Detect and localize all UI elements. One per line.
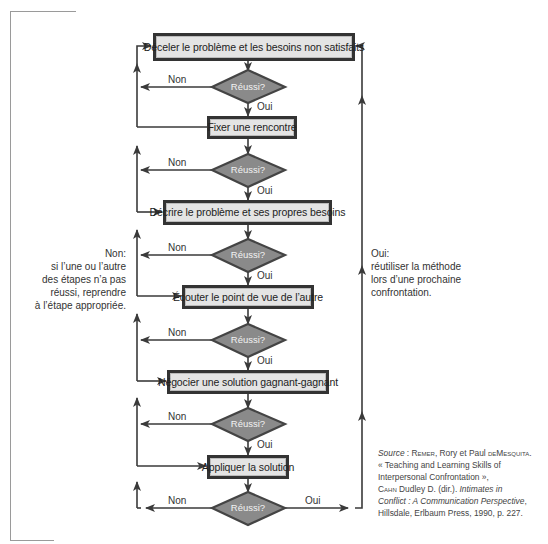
non-label-5: Non [168, 412, 186, 422]
source-book-title-1: Intimates in [460, 484, 503, 494]
left-note-line: des étapes n’a pas [20, 273, 126, 286]
left-note-line: Non: [20, 247, 126, 260]
decision-label-2: Réussi? [218, 165, 278, 175]
oui-label-1: Oui [257, 102, 273, 112]
source-editor: Cahn [378, 484, 397, 494]
source-publisher: Hillsdale, Erlbaum Press, 1990, p. 227. [378, 507, 548, 519]
source-book-title-2: Conflict : A Communication Perspective [378, 496, 524, 506]
decision-label-3: Réussi? [218, 250, 278, 260]
step-box-6: Appliquer la solution [207, 455, 289, 479]
decision-label-5: Réussi? [218, 419, 278, 429]
non-label-4: Non [168, 328, 186, 338]
step-label-3: Décrire le problème et ses propres besoi… [150, 207, 346, 218]
right-note-line: réutiliser la méthode [371, 260, 491, 273]
step-label-6: Appliquer la solution [202, 462, 294, 473]
non-label-3: Non [168, 243, 186, 253]
step-label-1: Déceler le problème et les besoins non s… [144, 42, 364, 53]
source-title-line-1: « Teaching and Learning Skills of [378, 459, 548, 471]
step-box-4: Écouter le point de vue de l’autre [182, 285, 314, 309]
left-note-line: réussi, reprendre [20, 286, 126, 299]
oui-label-6: Oui [305, 496, 321, 506]
flowchart-figure: Déceler le problème et les besoins non s… [0, 0, 548, 544]
non-label-1: Non [168, 75, 186, 85]
oui-label-2: Oui [257, 186, 273, 196]
left-note: Non: si l’une ou l’autre des étapes n’a … [20, 247, 126, 312]
decision-label-1: Réussi? [218, 82, 278, 92]
step-box-3: Décrire le problème et ses propres besoi… [163, 200, 332, 225]
source-title-line-2: Interpersonal Confrontation », [378, 471, 548, 483]
right-note-line: confrontation. [371, 286, 491, 299]
step-box-5: Négocier une solution gagnant-gagnant [167, 370, 329, 394]
step-box-1: Déceler le problème et les besoins non s… [153, 33, 355, 61]
step-box-2: Fixer une rencontre [207, 116, 297, 139]
step-label-4: Écouter le point de vue de l’autre [173, 292, 323, 303]
step-label-2: Fixer une rencontre [207, 122, 296, 133]
source-prefix: Source [378, 448, 405, 458]
source-author2: deMesquita [488, 448, 529, 458]
right-note: Oui: réutiliser la méthode lors d’une pr… [371, 247, 491, 299]
decision-label-6: Réussi? [218, 503, 278, 513]
left-note-line: si l’une ou l’autre [20, 260, 126, 273]
oui-label-5: Oui [257, 440, 273, 450]
right-note-line: lors d’une prochaine [371, 273, 491, 286]
source-author1: Remer [412, 448, 435, 458]
oui-label-3: Oui [257, 271, 273, 281]
non-label-6: Non [168, 496, 186, 506]
right-note-line: Oui: [371, 247, 491, 260]
source-citation: Source : Remer, Rory et Paul deMesquita.… [378, 447, 548, 519]
left-note-line: à l’étape appropriée. [20, 299, 126, 312]
non-label-2: Non [168, 158, 186, 168]
oui-label-4: Oui [257, 356, 273, 366]
decision-label-4: Réussi? [218, 335, 278, 345]
step-label-5: Négocier une solution gagnant-gagnant [158, 377, 338, 388]
